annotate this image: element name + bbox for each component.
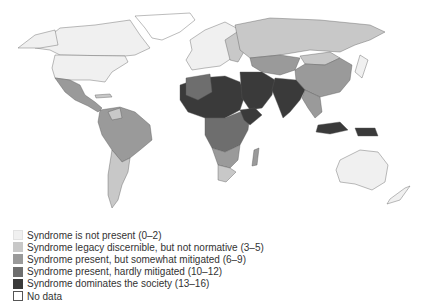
region-australia bbox=[336, 150, 388, 190]
legend-swatch-legacy bbox=[13, 242, 23, 252]
region-russia bbox=[235, 18, 385, 58]
region-south-america-north bbox=[98, 107, 152, 162]
legend-label: Syndrome present, hardly mitigated (10–1… bbox=[27, 266, 222, 277]
legend-label: No data bbox=[27, 291, 62, 302]
region-new-zealand bbox=[387, 186, 410, 204]
region-south-africa bbox=[218, 165, 236, 182]
legend-item: Syndrome dominates the society (13–16) bbox=[13, 278, 264, 290]
legend-label: Syndrome is not present (0–2) bbox=[27, 230, 162, 241]
region-papua bbox=[355, 128, 378, 136]
legend-swatch-hardly-mitigated bbox=[13, 267, 23, 277]
legend-swatch-no-data bbox=[13, 291, 23, 301]
legend-label: Syndrome dominates the society (13–16) bbox=[27, 278, 209, 289]
region-japan bbox=[355, 55, 368, 78]
legend-swatch-somewhat-mitigated bbox=[13, 254, 23, 264]
legend-label: Syndrome legacy discernible, but not nor… bbox=[27, 242, 264, 253]
world-choropleth-map bbox=[0, 0, 434, 225]
legend-item: Syndrome present, but somewhat mitigated… bbox=[13, 253, 264, 265]
legend-item: Syndrome present, hardly mitigated (10–1… bbox=[13, 266, 264, 278]
legend-item: No data bbox=[13, 290, 264, 302]
region-alaska bbox=[18, 30, 58, 48]
region-middle-east bbox=[240, 72, 275, 110]
region-usa bbox=[52, 55, 128, 82]
legend-item: Syndrome legacy discernible, but not nor… bbox=[13, 241, 264, 253]
map-legend: Syndrome is not present (0–2) Syndrome l… bbox=[13, 229, 264, 302]
region-caribbean bbox=[95, 94, 112, 98]
region-madagascar bbox=[252, 148, 259, 166]
region-indonesia bbox=[316, 122, 348, 134]
region-greenland bbox=[135, 13, 195, 40]
legend-swatch-dominates bbox=[13, 279, 23, 289]
legend-label: Syndrome present, but somewhat mitigated… bbox=[27, 254, 246, 265]
legend-swatch-not-present bbox=[13, 230, 23, 240]
legend-item: Syndrome is not present (0–2) bbox=[13, 229, 264, 241]
